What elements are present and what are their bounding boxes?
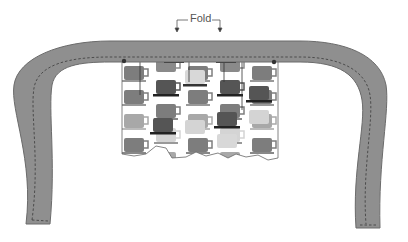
fold-label: Fold (189, 12, 212, 24)
fabric-panel (122, 58, 280, 162)
pin-right (272, 60, 276, 64)
strap-diagram (0, 0, 408, 242)
pin-left (122, 59, 126, 63)
